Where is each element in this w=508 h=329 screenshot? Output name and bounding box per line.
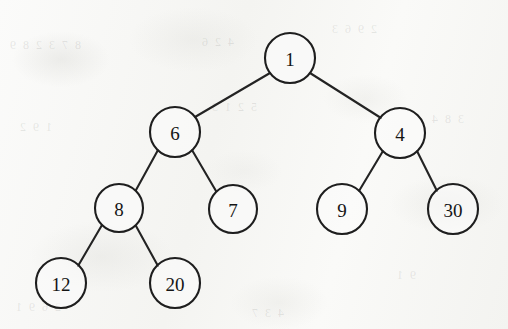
tree-node-9: 9 xyxy=(317,184,367,234)
tree-edge-n6-n8 xyxy=(136,150,158,190)
tree-node-7: 7 xyxy=(209,185,257,233)
tree-edge-n4-n30 xyxy=(417,151,437,191)
node-label-30: 30 xyxy=(444,200,463,221)
tree-node-4: 4 xyxy=(375,108,425,158)
node-label-4: 4 xyxy=(395,124,405,145)
tree-node-20: 20 xyxy=(150,258,200,308)
node-label-6: 6 xyxy=(170,123,180,144)
tree-edge-n8-n12 xyxy=(78,225,102,266)
tree-edge-n6-n7 xyxy=(192,150,216,191)
tree-edge-n1-n4 xyxy=(310,73,381,118)
binary-tree-graphic: 164879301220 xyxy=(0,0,508,329)
node-label-7: 7 xyxy=(228,200,238,221)
tree-node-12: 12 xyxy=(36,258,86,308)
tree-node-8: 8 xyxy=(95,184,143,232)
tree-node-30: 30 xyxy=(428,184,478,234)
node-label-12: 12 xyxy=(52,274,71,295)
tree-node-1: 1 xyxy=(265,33,315,83)
tree-diagram-page: 8 7 3 2 8 94 2 62 9 6 31 9 25 2 1 33 8 4… xyxy=(0,0,508,329)
tree-edge-n8-n20 xyxy=(136,226,158,266)
tree-edges-group xyxy=(78,73,437,266)
tree-nodes-group: 164879301220 xyxy=(36,33,478,308)
tree-edge-n4-n9 xyxy=(359,151,383,191)
node-label-9: 9 xyxy=(337,200,347,221)
node-label-8: 8 xyxy=(114,199,124,220)
tree-edge-n1-n6 xyxy=(195,73,270,117)
tree-node-6: 6 xyxy=(150,107,200,157)
node-label-1: 1 xyxy=(285,49,295,70)
node-label-20: 20 xyxy=(166,274,185,295)
